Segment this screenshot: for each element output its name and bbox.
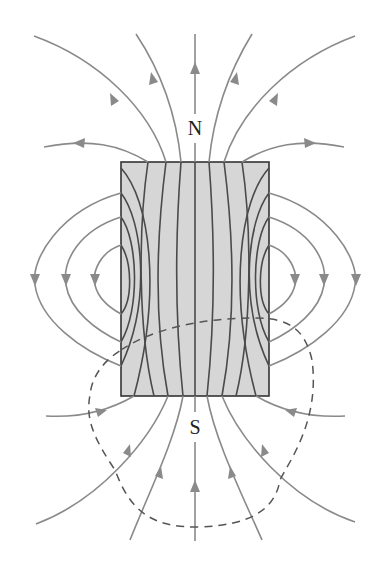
north-pole-label: N bbox=[186, 118, 204, 138]
south-pole-label: S bbox=[187, 417, 202, 437]
field-diagram-svg bbox=[0, 0, 386, 575]
bar-magnet-field-diagram: N S bbox=[0, 0, 386, 575]
